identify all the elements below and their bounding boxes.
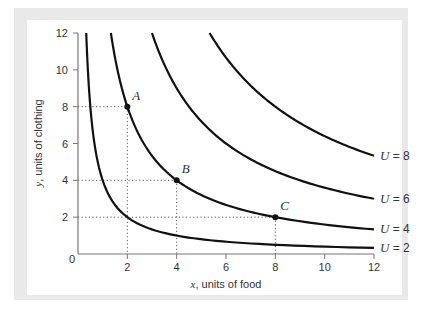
curve-label: U = 4	[380, 221, 410, 236]
indifference-curves	[86, 33, 374, 248]
y-tick-label: 2	[62, 211, 68, 223]
indifference-curve	[210, 33, 374, 156]
point-a-label: A	[131, 88, 140, 103]
point-c-marker	[272, 214, 278, 220]
x-tick-label: 6	[223, 261, 229, 273]
indifference-curve-chart: 2468101224681012 ABC U = 2U = 4U = 6U = …	[0, 0, 434, 314]
x-tick-label: 2	[124, 261, 130, 273]
y-tick-label: 4	[62, 174, 68, 186]
indifference-curve	[86, 33, 374, 248]
y-tick-label: 8	[62, 101, 68, 113]
curve-label: U = 8	[380, 148, 410, 163]
x-tick-label: 4	[174, 261, 180, 273]
point-a-marker	[124, 104, 130, 110]
curve-labels: U = 2U = 4U = 6U = 8	[380, 148, 410, 255]
point-c-label: C	[280, 198, 289, 213]
curve-label: U = 6	[380, 191, 410, 206]
y-axis-title: y, units of clothing	[32, 99, 44, 187]
origin-label: 0	[69, 253, 75, 265]
point-b-marker	[174, 177, 180, 183]
indifference-curve	[111, 33, 374, 229]
x-axis-title: x, units of food	[190, 278, 262, 290]
labeled-points: ABC	[124, 88, 289, 221]
y-tick-label: 12	[56, 27, 68, 39]
x-tick-label: 8	[272, 261, 278, 273]
point-b-label: B	[182, 161, 190, 176]
y-tick-label: 6	[62, 138, 68, 150]
axes: 2468101224681012	[56, 27, 380, 273]
y-tick-label: 10	[56, 64, 68, 76]
curve-label: U = 2	[380, 240, 410, 255]
x-tick-label: 12	[368, 261, 380, 273]
x-tick-label: 10	[319, 261, 331, 273]
